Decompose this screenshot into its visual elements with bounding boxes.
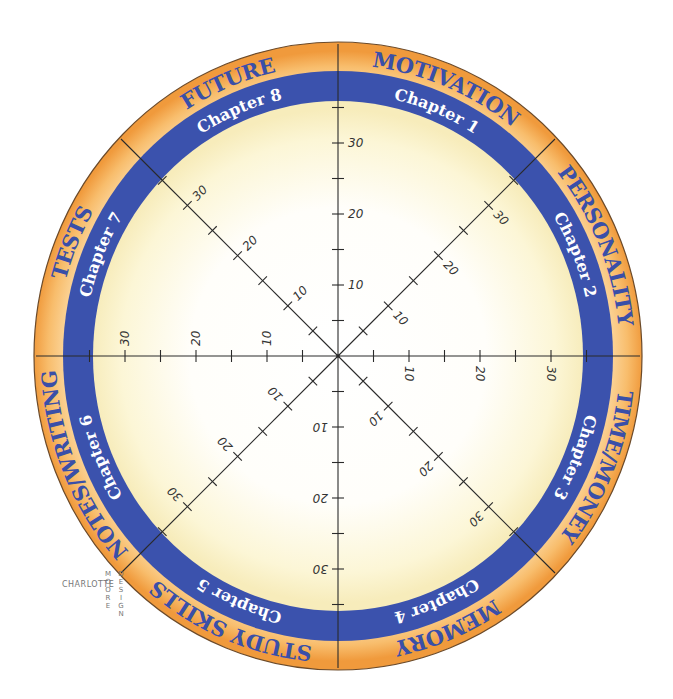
wheel-diagram: 1020301020301020301020301020301020301020…	[0, 0, 673, 699]
tick-label: 30	[348, 136, 364, 150]
tick-label: 10	[348, 278, 364, 292]
tick-label: 20	[189, 330, 203, 346]
tick-label: 10	[260, 330, 274, 346]
tick-label: 30	[312, 562, 328, 576]
tick-label: 20	[473, 366, 487, 382]
tick-label: 30	[544, 366, 558, 382]
center-point	[336, 354, 340, 358]
tick-label: 20	[348, 207, 364, 221]
tick-label: 30	[118, 330, 132, 346]
tick-label: 10	[402, 366, 416, 382]
signature-last: DESIGN	[117, 570, 125, 618]
signature-middle: MOORE	[104, 570, 112, 610]
tick-label: 20	[312, 491, 328, 505]
tick-label: 10	[312, 420, 328, 434]
